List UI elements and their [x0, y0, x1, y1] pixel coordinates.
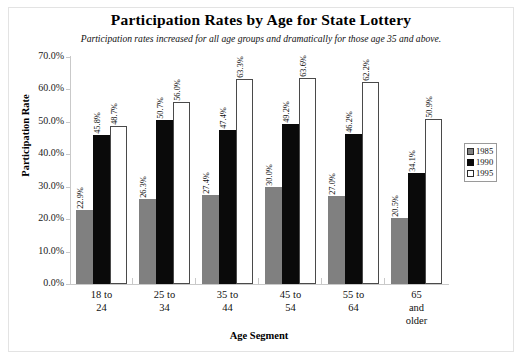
bar-value-label: 50.9%: [425, 96, 434, 118]
bar-1985[interactable]: [328, 196, 345, 284]
y-tick-label: 50.0%: [38, 115, 64, 126]
bar-slot: 56.0%: [173, 57, 190, 284]
y-tick-label: 30.0%: [38, 180, 64, 191]
x-axis-category-label-line: 18 to: [70, 288, 133, 301]
bar-slot: 50.7%: [156, 57, 173, 284]
bar-1995[interactable]: [299, 78, 316, 284]
x-axis-category-labels: 18 to2425 to3435 to4445 to5455 to6465and…: [70, 288, 448, 327]
bar-group: 22.9%45.8%48.7%: [70, 57, 133, 284]
bar-value-label: 56.0%: [173, 80, 182, 102]
x-axis-category-label-line: 35 to: [196, 288, 259, 301]
bar-value-label: 30.0%: [265, 164, 274, 186]
bar-groups: 22.9%45.8%48.7%26.3%50.7%56.0%27.4%47.4%…: [70, 57, 448, 284]
x-axis-category-label-line: older: [385, 314, 448, 327]
chart-title: Participation Rates by Age for State Lot…: [0, 11, 522, 29]
x-axis-category-label: 55 to64: [322, 288, 385, 327]
bar-group: 27.0%46.2%62.2%: [322, 57, 385, 284]
bar-1995[interactable]: [236, 79, 253, 284]
x-axis-line: [70, 284, 449, 285]
bar-value-label: 27.0%: [328, 174, 337, 196]
y-tick-label: 40.0%: [38, 147, 64, 158]
plot-area: 70.0%60.0%50.0%40.0%30.0%20.0%10.0%0.0% …: [70, 57, 448, 284]
bar-1985[interactable]: [139, 199, 156, 284]
bar-value-label: 63.6%: [299, 55, 308, 77]
legend-label: 1985: [476, 146, 493, 157]
bar-group-bars: 27.0%46.2%62.2%: [328, 57, 379, 284]
bar-slot: 46.2%: [345, 57, 362, 284]
bar-slot: 20.5%: [391, 57, 408, 284]
y-tick-label: 60.0%: [38, 82, 64, 93]
bar-value-label: 49.2%: [282, 102, 291, 124]
bar-slot: 63.3%: [236, 57, 253, 284]
x-axis-category-label: 25 to34: [133, 288, 196, 327]
x-axis-category-label-line: 65: [385, 288, 448, 301]
legend-swatch-icon: [467, 159, 474, 166]
chart-subtitle: Participation rates increased for all ag…: [0, 33, 522, 44]
x-axis-category-label-line: 44: [196, 301, 259, 314]
bar-1985[interactable]: [76, 210, 93, 284]
bar-value-label: 27.4%: [202, 172, 211, 194]
x-axis-category-label: 35 to44: [196, 288, 259, 327]
bar-slot: 47.4%: [219, 57, 236, 284]
x-axis-title: Age Segment: [70, 330, 448, 341]
x-axis-category-label-line: 25 to: [133, 288, 196, 301]
x-axis-category-label: 45 to54: [259, 288, 322, 327]
bar-slot: 26.3%: [139, 57, 156, 284]
bar-1995[interactable]: [173, 102, 190, 284]
x-axis-category-label-line: 54: [259, 301, 322, 314]
bar-1995[interactable]: [362, 82, 379, 284]
bar-slot: 27.4%: [202, 57, 219, 284]
bar-slot: 45.8%: [93, 57, 110, 284]
bar-group-bars: 26.3%50.7%56.0%: [139, 57, 190, 284]
legend-label: 1990: [476, 157, 493, 168]
x-axis-category-label: 65andolder: [385, 288, 448, 327]
bar-1990[interactable]: [282, 124, 299, 284]
bar-slot: 50.9%: [425, 57, 442, 284]
bar-value-label: 26.3%: [139, 176, 148, 198]
bar-1990[interactable]: [156, 120, 173, 284]
legend-item-1995[interactable]: 1995: [467, 168, 493, 179]
y-tick-label: 10.0%: [38, 245, 64, 256]
bar-slot: 30.0%: [265, 57, 282, 284]
x-axis-category-label-line: 24: [70, 301, 133, 314]
y-tick-label: 20.0%: [38, 212, 64, 223]
y-tick-mark: [66, 284, 70, 285]
legend: 198519901995: [464, 143, 497, 182]
legend-item-1990[interactable]: 1990: [467, 157, 493, 168]
bar-1990[interactable]: [408, 173, 425, 284]
bar-group-bars: 27.4%47.4%63.3%: [202, 57, 253, 284]
bar-slot: 34.1%: [408, 57, 425, 284]
bar-group-bars: 22.9%45.8%48.7%: [76, 57, 127, 284]
bar-1990[interactable]: [93, 135, 110, 284]
bar-group: 30.0%49.2%63.6%: [259, 57, 322, 284]
x-axis-category-label-line: 45 to: [259, 288, 322, 301]
bar-group: 26.3%50.7%56.0%: [133, 57, 196, 284]
bar-1990[interactable]: [219, 130, 236, 284]
bar-slot: 62.2%: [362, 57, 379, 284]
bar-value-label: 22.9%: [76, 187, 85, 209]
bar-slot: 49.2%: [282, 57, 299, 284]
bar-1985[interactable]: [202, 195, 219, 284]
bar-value-label: 63.3%: [236, 56, 245, 78]
x-axis-category-label-line: 55 to: [322, 288, 385, 301]
bar-value-label: 46.2%: [345, 111, 354, 133]
bar-slot: 48.7%: [110, 57, 127, 284]
bar-slot: 63.6%: [299, 57, 316, 284]
bar-1990[interactable]: [345, 134, 362, 284]
bar-group: 27.4%47.4%63.3%: [196, 57, 259, 284]
legend-item-1985[interactable]: 1985: [467, 146, 493, 157]
bar-value-label: 50.7%: [156, 97, 165, 119]
bar-1995[interactable]: [425, 119, 442, 284]
x-axis-category-label-line: 34: [133, 301, 196, 314]
legend-swatch-icon: [467, 148, 474, 155]
bar-1985[interactable]: [265, 187, 282, 284]
bar-value-label: 48.7%: [110, 103, 119, 125]
legend-label: 1995: [476, 168, 493, 179]
x-axis-category-label: 18 to24: [70, 288, 133, 327]
bar-1985[interactable]: [391, 218, 408, 284]
bar-value-label: 34.1%: [408, 151, 417, 173]
bar-value-label: 47.4%: [219, 107, 228, 129]
chart-container: Participation Rates by Age for State Lot…: [0, 0, 522, 360]
bar-1995[interactable]: [110, 126, 127, 284]
bar-value-label: 20.5%: [391, 195, 400, 217]
